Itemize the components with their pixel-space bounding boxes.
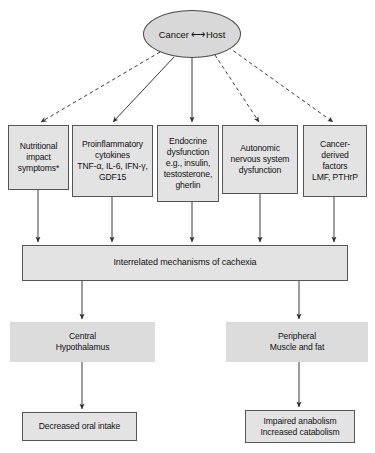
root-node-cancer-host[interactable]: Cancer⟷Host: [143, 10, 241, 58]
line: TNF-α, IL-6, IFN-γ,: [77, 161, 147, 171]
line: cytokines: [95, 150, 130, 160]
node-endocrine-dysfunction[interactable]: Endocrine dysfunction e.g., insulin, tes…: [157, 125, 219, 202]
line: Increased catabolism: [260, 427, 339, 437]
line: nervous system: [231, 154, 290, 164]
line: gherlin: [175, 180, 200, 190]
node-label: Interrelated mechanisms of cachexia: [23, 257, 347, 269]
line: Nutritional: [20, 141, 58, 151]
node-autonomic-nervous-system-dysfunction[interactable]: Autonomic nervous system dysfunction: [222, 125, 298, 194]
node-label: Endocrine dysfunction e.g., insulin, tes…: [158, 136, 218, 191]
line: dysfunction: [239, 165, 281, 175]
node-interrelated-mechanisms-of-cachexia[interactable]: Interrelated mechanisms of cachexia: [22, 245, 348, 281]
node-proinflammatory-cytokines[interactable]: Proinflammatory cytokines TNF-α, IL-6, I…: [72, 125, 153, 197]
node-central-hypothalamus[interactable]: Central Hypothalamus: [10, 322, 155, 362]
node-label: Nutritional impact symptoms*: [9, 141, 68, 174]
line: testosterone,: [164, 169, 212, 179]
line: Cancer-: [320, 139, 350, 149]
edge-root-to-cancer-derived-factors: [228, 47, 333, 122]
node-label: Cancer- derived factors LMF, PTHrP: [304, 139, 366, 183]
line: derived: [321, 150, 349, 160]
line: symptoms*: [18, 163, 60, 173]
node-label: Peripheral Muscle and fat: [226, 331, 368, 353]
line: Central: [69, 331, 96, 341]
line: Hypothalamus: [56, 342, 110, 352]
edge-root-to-nutritional-impact-symptoms: [41, 52, 160, 122]
edge-layer: [0, 0, 375, 453]
edge-root-to-proinflammatory-cytokines: [113, 57, 174, 122]
cachexia-flow-diagram: Cancer⟷Host Nutritional impact symptoms*…: [0, 0, 375, 453]
node-impaired-anabolism-increased-catabolism[interactable]: Impaired anabolism Increased catabolism: [245, 410, 355, 443]
root-label-host: Host: [206, 29, 225, 40]
node-cancer-derived-factors[interactable]: Cancer- derived factors LMF, PTHrP: [303, 125, 367, 197]
line: Autonomic: [240, 143, 280, 153]
line: e.g., insulin,: [166, 158, 210, 168]
line: dysfunction: [167, 147, 209, 157]
node-nutritional-impact-symptoms[interactable]: Nutritional impact symptoms*: [8, 125, 69, 190]
node-label: Proinflammatory cytokines TNF-α, IL-6, I…: [73, 139, 152, 183]
node-label: Decreased oral intake: [23, 421, 136, 432]
bidirectional-arrow-icon: ⟷: [189, 29, 206, 40]
edge-root-to-autonomic-nervous-system-dysfunction: [215, 55, 259, 122]
line: GDF15: [99, 172, 126, 182]
line: LMF, PTHrP: [312, 172, 358, 182]
node-decreased-oral-intake[interactable]: Decreased oral intake: [22, 412, 137, 441]
node-label: Autonomic nervous system dysfunction: [223, 143, 297, 176]
node-label: Central Hypothalamus: [10, 331, 155, 353]
line: Proinflammatory: [82, 139, 143, 149]
root-label-cancer: Cancer: [159, 29, 189, 40]
line: factors: [322, 161, 347, 171]
line: Peripheral: [278, 331, 316, 341]
line: impact: [26, 152, 51, 162]
root-node-text: Cancer⟷Host: [159, 29, 226, 40]
line: Impaired anabolism: [263, 416, 336, 426]
line: Muscle and fat: [270, 342, 325, 352]
line: Endocrine: [169, 136, 207, 146]
node-peripheral-muscle-and-fat[interactable]: Peripheral Muscle and fat: [226, 322, 368, 362]
node-label: Impaired anabolism Increased catabolism: [246, 416, 354, 438]
